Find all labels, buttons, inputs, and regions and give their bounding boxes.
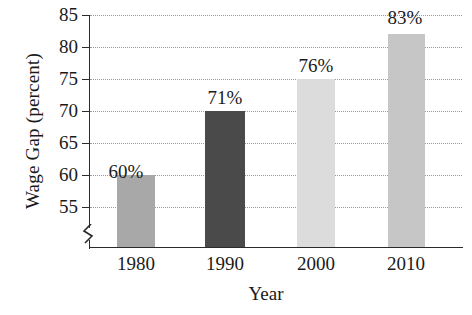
- y-tick-mark-60: [82, 175, 90, 176]
- x-axis-title: Year: [0, 283, 472, 305]
- x-axis-spine: [89, 247, 463, 248]
- y-tick-label-65: 65: [32, 133, 78, 152]
- bar-2000: [297, 79, 335, 248]
- x-tick-label-2010: 2010: [371, 253, 441, 275]
- bar-1980: [117, 175, 155, 248]
- y-tick-mark-65: [82, 143, 90, 144]
- x-tick-label-2000: 2000: [281, 253, 351, 275]
- y-tick-label-60: 60: [32, 165, 78, 184]
- bar-chart: Wage Gap (percent) 85 80 75 70 65 60 55: [0, 0, 472, 315]
- y-tick-mark-55: [82, 207, 90, 208]
- y-tick-label-85: 85: [32, 5, 78, 24]
- y-tick-label-75: 75: [32, 69, 78, 88]
- bar-value-label-2000: 76%: [286, 56, 346, 75]
- y-tick-mark-85: [82, 15, 90, 16]
- bar-2010: [388, 34, 425, 248]
- bar-value-label-1990: 71%: [195, 88, 255, 107]
- y-tick-label-55: 55: [32, 197, 78, 216]
- plot-area: [90, 15, 462, 248]
- bar-value-label-2010: 83%: [375, 8, 435, 27]
- y-tick-label-70: 70: [32, 101, 78, 120]
- x-tick-label-1990: 1990: [190, 253, 260, 275]
- y-tick-label-80: 80: [32, 37, 78, 56]
- bar-value-label-1980: 60%: [96, 162, 156, 181]
- y-tick-mark-80: [82, 47, 90, 48]
- bar-1990: [205, 111, 245, 248]
- x-tick-label-1980: 1980: [101, 253, 171, 275]
- y-tick-mark-70: [82, 111, 90, 112]
- axis-break-icon: [80, 224, 96, 244]
- y-tick-mark-75: [82, 79, 90, 80]
